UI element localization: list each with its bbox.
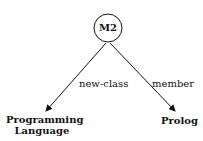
node-programming-language-line1: Programming xyxy=(6,115,78,125)
edge-label-new-class: new-class xyxy=(79,79,128,89)
node-prolog: Prolog xyxy=(161,116,198,126)
edge-label-member: member xyxy=(152,79,194,89)
edge-new-class xyxy=(46,43,106,111)
edge-member xyxy=(110,43,175,111)
root-node-label: M2 xyxy=(94,23,122,33)
node-programming-language-line2: Language xyxy=(6,126,78,136)
